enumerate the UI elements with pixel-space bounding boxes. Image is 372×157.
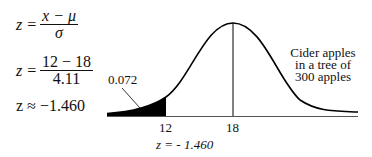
area-label-leader (122, 88, 140, 108)
annotation-line-3: 300 apples (283, 71, 363, 83)
x-tick-12: 12 (159, 121, 172, 134)
shaded-area-label: 0.072 (108, 73, 137, 86)
z-score-text: z = - 1.460 (156, 137, 213, 152)
z-score-label: z = - 1.460 (156, 138, 213, 151)
x-tick-18: 18 (226, 121, 239, 134)
annotation: Cider apples in a tree of 300 apples (283, 47, 363, 83)
